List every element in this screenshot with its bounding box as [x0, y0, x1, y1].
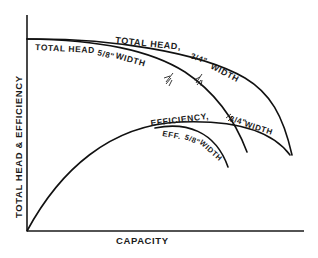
efficiency-3-4-label: EFFICIENCY, — [150, 111, 209, 128]
efficiency-3-4-width: WIDTH — [243, 119, 274, 137]
operating-point-hatch-1 — [164, 73, 173, 86]
pump-performance-diagram: TOTAL HEAD & EFFICIENCY CAPACITY TOTAL H… — [0, 0, 318, 258]
total-head-3-4-curve — [27, 39, 292, 155]
head-5-8-label: TOTAL HEAD — [35, 42, 95, 55]
head-5-8-fraction: 5/8" — [97, 48, 116, 61]
efficiency-3-4-curve — [27, 122, 290, 231]
head-3-4-width: WIDTH — [209, 61, 241, 84]
x-axis-label: CAPACITY — [116, 235, 169, 246]
efficiency-5-8-label: EFF. — [162, 129, 182, 141]
y-axis-label: TOTAL HEAD & EFFICIENCY — [13, 75, 24, 218]
head-3-4-fraction: 3/4" — [189, 51, 208, 65]
